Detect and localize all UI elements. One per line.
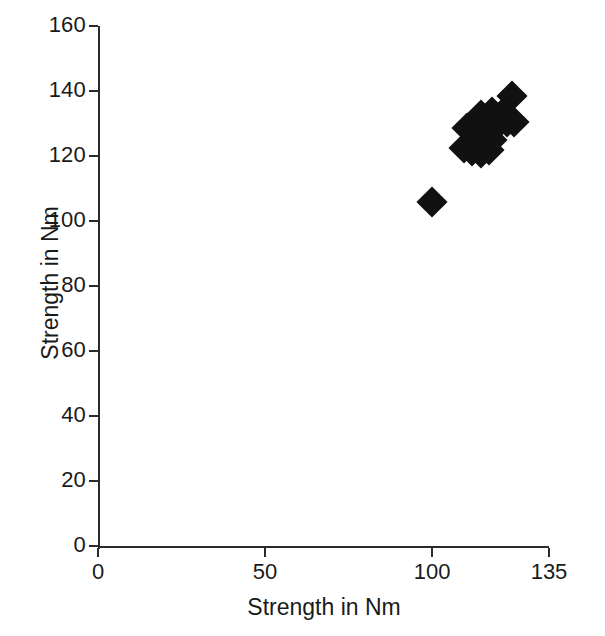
- y-tick-mark: [89, 350, 98, 352]
- scatter-plot-figure: 160140120100806040200 050100135 Strength…: [0, 0, 605, 636]
- y-tick-mark: [89, 220, 98, 222]
- x-tick-label: 50: [225, 560, 305, 584]
- y-tick-mark: [89, 25, 98, 27]
- y-tick-label: 20: [40, 469, 86, 491]
- y-tick-mark: [89, 155, 98, 157]
- y-tick-label-wrap: 20: [0, 469, 86, 491]
- y-tick-mark: [89, 415, 98, 417]
- x-tick-label: 100: [392, 560, 472, 584]
- y-tick-label-wrap: 0: [0, 534, 86, 556]
- x-tick-label: 135: [509, 560, 589, 584]
- x-axis-title: Strength in Nm: [98, 594, 550, 620]
- y-tick-label: 140: [40, 79, 86, 101]
- x-tick-mark: [431, 548, 433, 557]
- y-tick-mark: [89, 285, 98, 287]
- y-tick-mark: [89, 90, 98, 92]
- x-tick-mark: [97, 548, 99, 557]
- y-axis-title: Strength in Nm: [37, 133, 63, 433]
- y-tick-label: 160: [40, 14, 86, 36]
- y-tick-label-wrap: 140: [0, 79, 86, 101]
- y-tick-mark: [89, 545, 98, 547]
- data-point-marker: [417, 186, 448, 217]
- y-tick-mark: [89, 480, 98, 482]
- plot-area: [98, 26, 550, 547]
- y-tick-label-wrap: 160: [0, 14, 86, 36]
- y-tick-label: 0: [40, 534, 86, 556]
- x-tick-mark: [548, 548, 550, 557]
- x-tick-mark: [264, 548, 266, 557]
- x-tick-label: 0: [58, 560, 138, 584]
